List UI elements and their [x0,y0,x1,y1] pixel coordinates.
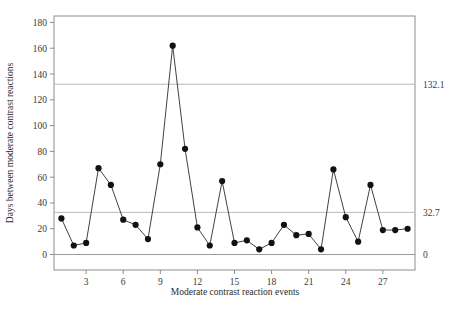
y-tick-label: 120 [33,95,48,105]
data-point-marker [194,224,200,230]
x-tick-label: 27 [378,277,388,287]
data-point-marker [330,166,336,172]
data-point-marker [157,161,163,167]
data-point-marker [231,240,237,246]
y-tick-label: 60 [38,173,48,183]
lower-control-limit-label: 0 [423,250,428,260]
data-point-marker [170,43,176,49]
data-point-marker [306,231,312,237]
data-point-marker [207,242,213,248]
y-axis-title: Days between moderate contrast reactions [5,63,15,224]
data-point-marker [145,236,151,242]
data-point-marker [120,217,126,223]
data-point-marker [244,237,250,243]
data-point-marker [268,240,274,246]
y-tick-label: 0 [42,250,47,260]
y-tick-label: 20 [38,224,48,234]
x-tick-label: 21 [304,277,314,287]
y-tick-label: 100 [33,121,48,131]
data-point-marker [318,246,324,252]
data-point-marker [108,182,114,188]
data-point-marker [256,246,262,252]
control-chart-figure: 020406080100120140160180 369121518212427… [0,0,456,313]
y-tick-label: 140 [33,70,48,80]
x-tick-label: 12 [193,277,203,287]
x-axis-title: Moderate contrast reaction events [171,287,300,297]
x-tick-label: 3 [84,277,89,287]
upper-control-limit-label: 132.1 [423,80,445,90]
x-tick-label: 24 [341,277,351,287]
data-point-marker [58,215,64,221]
data-point-marker [367,182,373,188]
y-tick-label: 180 [33,18,48,28]
data-point-marker [71,242,77,248]
data-point-marker [95,165,101,171]
chart-canvas: 020406080100120140160180 369121518212427… [0,0,456,313]
y-tick-label: 40 [38,198,48,208]
data-point-marker [83,240,89,246]
x-tick-label: 6 [121,277,126,287]
data-point-marker [219,178,225,184]
data-point-marker [380,227,386,233]
x-tick-label: 9 [158,277,163,287]
data-point-marker [293,232,299,238]
data-point-marker [182,146,188,152]
figure-background [0,0,456,313]
data-point-marker [404,226,410,232]
x-tick-label: 15 [230,277,240,287]
data-point-marker [355,239,361,245]
data-point-marker [133,222,139,228]
caption-fragment [0,300,456,313]
data-point-marker [281,222,287,228]
y-tick-label: 160 [33,44,48,54]
data-point-marker [392,227,398,233]
x-tick-label: 18 [267,277,277,287]
data-point-marker [343,214,349,220]
center-line-label: 32.7 [423,208,440,218]
y-tick-label: 80 [38,147,48,157]
